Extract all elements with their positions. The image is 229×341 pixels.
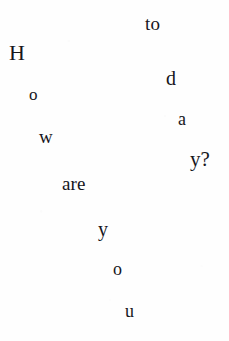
text-fragment-o1: o xyxy=(29,86,38,103)
text-fragment-d: d xyxy=(166,68,176,88)
text-fragment-are: are xyxy=(62,174,86,193)
text-fragment-to: to xyxy=(145,14,160,33)
text-fragment-a1: a xyxy=(178,110,186,128)
text-fragment-H: H xyxy=(9,42,25,64)
text-fragment-y2: y xyxy=(98,219,108,239)
text-fragment-yq: y? xyxy=(190,149,210,170)
scattered-text-canvas: toHdoawy?areyou xyxy=(0,0,229,341)
text-fragment-w: w xyxy=(39,127,53,146)
text-fragment-o2: o xyxy=(113,260,122,278)
text-fragment-u: u xyxy=(125,302,134,320)
